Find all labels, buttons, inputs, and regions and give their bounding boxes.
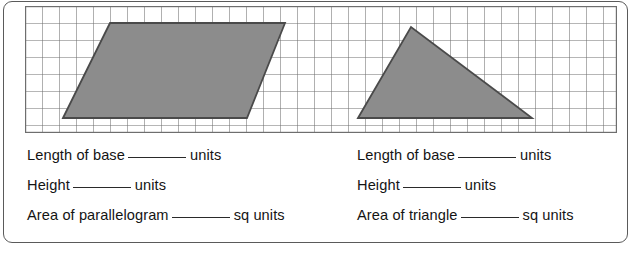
parallelogram-area-label: Area of parallelogram [27,207,169,223]
parallelogram-base-line: Length of baseunits [27,140,347,170]
parallelogram-area-blank[interactable] [172,206,230,218]
answer-column-triangle: Length of baseunits Heightunits Area of … [357,140,636,230]
triangle-area-blank[interactable] [461,206,519,218]
answer-column-parallelogram: Length of baseunits Heightunits Area of … [27,140,347,230]
triangle-base-unit: units [520,147,551,163]
parallelogram-height-blank[interactable] [73,176,131,188]
parallelogram-area-unit: sq units [234,207,285,223]
answers-block: Length of baseunits Heightunits Area of … [0,140,636,240]
triangle-base-line: Length of baseunits [357,140,636,170]
parallelogram-height-line: Heightunits [27,170,347,200]
triangle-height-blank[interactable] [403,176,461,188]
triangle-height-label: Height [357,177,400,193]
triangle-area-label: Area of triangle [357,207,458,223]
grid-canvas [25,6,617,133]
parallelogram-area-line: Area of parallelogramsq units [27,200,347,230]
parallelogram-height-label: Height [27,177,70,193]
parallelogram-base-unit: units [190,147,221,163]
triangle-height-unit: units [465,177,496,193]
grid-figure-area [25,6,617,133]
worksheet-page: Length of baseunits Heightunits Area of … [0,0,636,253]
triangle-height-line: Heightunits [357,170,636,200]
parallelogram-base-label: Length of base [27,147,125,163]
triangle-base-blank[interactable] [458,146,516,158]
triangle-area-line: Area of trianglesq units [357,200,636,230]
triangle-base-label: Length of base [357,147,455,163]
parallelogram-height-unit: units [135,177,166,193]
parallelogram-base-blank[interactable] [128,146,186,158]
triangle-area-unit: sq units [523,207,574,223]
